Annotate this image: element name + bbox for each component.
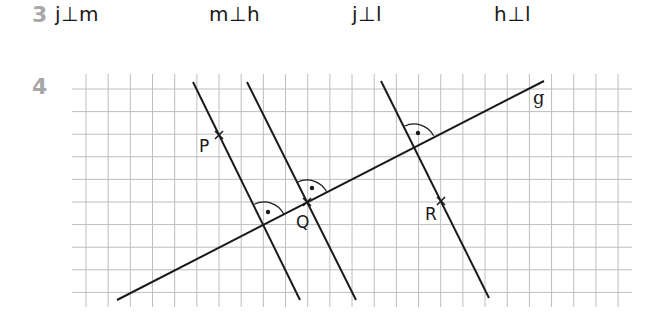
grid-paper xyxy=(72,74,632,307)
point-q-label: Q xyxy=(296,212,309,232)
point-p-label: P xyxy=(199,136,209,156)
perpendicular-line-through-r xyxy=(381,81,489,298)
perpendicular-line-through-p xyxy=(193,82,300,300)
line-g xyxy=(117,81,544,300)
right-angle-dot-2 xyxy=(310,186,314,190)
right-angle-dot-1 xyxy=(266,210,270,214)
right-angle-dot-3 xyxy=(416,131,420,135)
line-g-label: g xyxy=(533,87,545,108)
geometry-figure: g P Q R xyxy=(0,0,646,317)
point-r-label: R xyxy=(425,204,437,224)
